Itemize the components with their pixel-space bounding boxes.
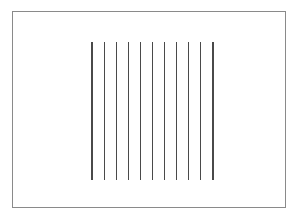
- figure-svg: [0, 0, 297, 221]
- canvas-background: [0, 0, 297, 221]
- figure-canvas: [0, 0, 297, 221]
